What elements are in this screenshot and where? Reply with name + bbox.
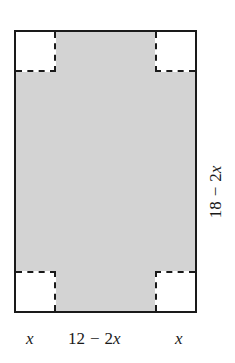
label-bottom-width: 12−2x [68, 330, 121, 347]
label-right-height-coefficient: 2 [206, 173, 225, 182]
label-bottom-left-x: x [26, 330, 34, 347]
label-bottom-width-variable: x [113, 329, 121, 348]
shaded-base-region [16, 32, 195, 311]
label-right-height-number: 18 [206, 201, 225, 218]
label-right-height-operator: − [206, 182, 225, 202]
sheet-rectangle [14, 30, 197, 313]
label-bottom-width-operator: − [85, 329, 105, 348]
label-bottom-right-variable: x [175, 329, 183, 348]
label-right-height-variable: x [206, 166, 225, 174]
corner-cutout-top-left [16, 32, 56, 72]
label-bottom-width-number: 12 [68, 329, 85, 348]
label-bottom-right-x: x [175, 330, 183, 347]
corner-cutout-top-right [155, 32, 195, 72]
corner-cutout-bottom-left [16, 271, 56, 311]
shaded-horizontal-band [16, 72, 195, 271]
label-bottom-width-coefficient: 2 [105, 329, 114, 348]
label-right-height: 18−2x [207, 166, 224, 219]
label-bottom-left-variable: x [26, 329, 34, 348]
corner-cutout-bottom-right [155, 271, 195, 311]
geometry-figure: x 12−2x x 18−2x [0, 0, 235, 363]
